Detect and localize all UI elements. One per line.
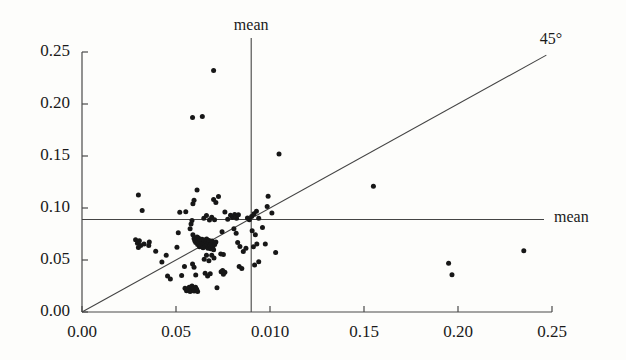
scatter-point (521, 248, 526, 253)
x-tick-label: 0.05 (151, 322, 201, 342)
scatter-point (212, 217, 217, 222)
plot-canvas (0, 0, 626, 360)
scatter-point (200, 114, 205, 119)
scatter-point (216, 194, 221, 199)
x-tick-label: 0.15 (339, 322, 389, 342)
scatter-point (190, 115, 195, 120)
scatter-point (177, 210, 182, 215)
scatter-point (174, 245, 179, 250)
scatter-point (168, 276, 173, 281)
scatter-point (239, 266, 244, 271)
scatter-point (250, 228, 255, 233)
y-tick-label: 0.25 (12, 41, 70, 61)
scatter-point (159, 260, 164, 265)
scatter-point (204, 253, 209, 258)
x-tick-label: 0.010 (245, 322, 295, 342)
scatter-point (189, 218, 194, 223)
scatter-point (237, 244, 242, 249)
scatter-point (179, 273, 184, 278)
reference-line-identity-45deg (82, 55, 546, 312)
scatter-point (213, 240, 218, 245)
annotation-horizontal-mean-label: mean (554, 208, 589, 226)
scatter-point (192, 198, 197, 203)
scatter-point (266, 194, 271, 199)
scatter-point (273, 250, 278, 255)
scatter-point (214, 285, 219, 290)
scatter-point (164, 253, 169, 258)
scatter-point (252, 262, 257, 267)
scatter-point (204, 213, 209, 218)
scatter-point (137, 238, 142, 243)
scatter-point (371, 184, 376, 189)
scatter-point (147, 240, 152, 245)
y-tick-label: 0.05 (12, 249, 70, 269)
scatter-point (211, 247, 216, 252)
scatter-point (222, 209, 227, 214)
scatter-point (277, 151, 282, 156)
scatter-point (253, 232, 258, 237)
reference-lines (82, 38, 546, 312)
scatter-point (208, 271, 213, 276)
scatter-point (182, 264, 187, 269)
scatter-point (193, 273, 198, 278)
scatter-point (265, 204, 270, 209)
scatter-point (220, 229, 225, 234)
scatter-point (449, 272, 454, 277)
y-tick-label: 0.10 (12, 197, 70, 217)
scatter-point (221, 252, 226, 257)
scatter-point (183, 209, 188, 214)
scatter-point (236, 212, 241, 217)
scatter-point (231, 226, 236, 231)
scatter-plot-figure: 0.000.050.0100.150.200.250.000.050.100.1… (0, 0, 626, 360)
scatter-point (192, 265, 197, 270)
scatter-point (234, 231, 239, 236)
scatter-point (243, 246, 248, 251)
data-points (133, 68, 526, 294)
scatter-point (195, 188, 200, 193)
scatter-point (254, 209, 259, 214)
scatter-point (254, 241, 259, 246)
x-tick-label: 0.00 (57, 322, 107, 342)
scatter-point (222, 270, 227, 275)
scatter-point (206, 258, 211, 263)
scatter-point (446, 261, 451, 266)
scatter-point (260, 225, 265, 230)
scatter-point (153, 249, 158, 254)
scatter-point (140, 208, 145, 213)
annotation-identity-line-label: 45° (540, 30, 562, 48)
x-tick-label: 0.25 (527, 322, 577, 342)
scatter-point (142, 241, 147, 246)
scatter-point (188, 226, 193, 231)
scatter-point (136, 245, 141, 250)
scatter-point (269, 210, 274, 215)
scatter-point (213, 200, 218, 205)
scatter-point (263, 241, 268, 246)
annotation-vertical-mean-label: mean (221, 16, 281, 34)
scatter-point (211, 255, 216, 260)
y-tick-label: 0.20 (12, 93, 70, 113)
scatter-point (211, 68, 216, 73)
scatter-point (195, 289, 200, 294)
y-tick-label: 0.15 (12, 145, 70, 165)
scatter-point (136, 193, 141, 198)
scatter-point (256, 216, 261, 221)
scatter-point (176, 230, 181, 235)
x-tick-label: 0.20 (433, 322, 483, 342)
y-tick-label: 0.00 (12, 301, 70, 321)
scatter-point (256, 259, 261, 264)
